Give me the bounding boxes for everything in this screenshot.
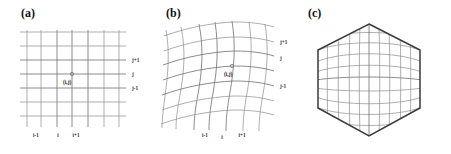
panel-a-horizontal-lines [20,32,126,116]
panel-b-ylabel-2: j-1 [279,83,286,89]
panel-c: (c) [298,0,451,154]
panel-b-node-label: (i,j) [224,71,232,78]
panel-c-interior-mesh [316,20,422,140]
panel-c-vertical-lines [327,20,411,140]
panel-b-xlabel-0: i-1 [202,132,208,138]
panel-b-xlabel-1: i [221,134,223,140]
panel-a-node-label: (i,j) [63,79,71,86]
panel-a-vertical-lines [27,30,119,127]
panel-b-grid-svg: (i,j) i-1 i i+1 j+1 j j-1 [158,0,298,154]
panel-a-xlabel-1: i [57,132,59,138]
panel-c-grid-svg [298,0,451,154]
figure-canvas: (a) (i,j) [0,0,451,154]
panel-b: (b) [158,0,298,154]
panel-a-ylabel-0: j+1 [131,57,140,63]
panel-a: (a) (i,j) [0,0,158,154]
panel-a-xlabel-0: i-1 [33,132,39,138]
panel-a-ylabel-1: j [131,71,134,77]
panel-a-xlabel-2: i+1 [73,132,80,138]
panel-b-xlabel-2: i+1 [239,132,246,138]
panel-b-ylabel-1: j [279,55,282,61]
panel-a-ylabel-2: j-1 [131,85,138,91]
panel-b-ylabel-0: j+1 [279,39,288,45]
panel-a-grid-svg: (i,j) i-1 i i+1 j+1 j j-1 [0,0,158,154]
